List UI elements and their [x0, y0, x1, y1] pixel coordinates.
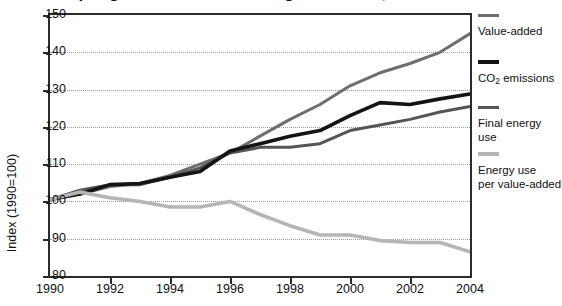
- legend-label-3: Energy use per value-added: [478, 164, 562, 191]
- x-tick-mark-2000: [350, 278, 352, 284]
- x-tick-mark-2002: [410, 278, 412, 284]
- legend-label-0: Value-added: [478, 25, 562, 39]
- legend-swatch-icon-3: [478, 152, 499, 156]
- legend-swatch-icon-0: [478, 14, 499, 17]
- series-line-value-added: [50, 34, 470, 200]
- plot-area: [48, 13, 472, 278]
- x-tick-label-1998: 1998: [276, 282, 304, 296]
- legend-label-1: CO2 emissions: [478, 72, 562, 87]
- y-tick-label-90: 90: [52, 231, 66, 245]
- legend-swatch-icon-1: [478, 60, 499, 64]
- y-tick-label-80: 80: [52, 268, 66, 282]
- legend-entry-3[interactable]: Energy use per value-added: [478, 152, 562, 191]
- x-tick-label-2000: 2000: [336, 282, 364, 296]
- y-tick-label-130: 130: [45, 82, 66, 96]
- y-tick-mark-80: [43, 276, 48, 278]
- legend-label-2: Final energy use: [478, 117, 562, 144]
- y-tick-label-110: 110: [46, 156, 66, 170]
- series-line-energy-use-per-value-added: [50, 192, 470, 252]
- y-tick-mark-130: [43, 90, 48, 92]
- y-tick-mark-110: [43, 164, 48, 166]
- x-tick-label-1990: 1990: [36, 282, 64, 296]
- y-tick-mark-100: [43, 201, 48, 203]
- legend-swatch-icon-2: [478, 106, 499, 109]
- x-tick-mark-1992: [110, 278, 112, 284]
- chart-legend: Value-addedCO2 emissionsFinal energy use…: [478, 0, 562, 306]
- x-tick-label-1996: 1996: [216, 282, 244, 296]
- legend-entry-0[interactable]: Value-added: [478, 14, 562, 39]
- y-axis-label: Index (1990=100): [5, 123, 19, 283]
- y-tick-mark-150: [43, 15, 48, 17]
- x-tick-mark-1994: [170, 278, 172, 284]
- y-tick-label-150: 150: [45, 7, 66, 21]
- y-tick-mark-140: [43, 52, 48, 54]
- y-tick-mark-90: [43, 239, 48, 241]
- legend-entry-2[interactable]: Final energy use: [478, 106, 562, 144]
- y-tick-label-120: 120: [45, 119, 66, 133]
- page-title: Decoupling in the manufacturing industri…: [26, 0, 440, 3]
- y-tick-label-100: 100: [45, 193, 66, 207]
- x-tick-label-1992: 1992: [96, 282, 124, 296]
- x-tick-label-2002: 2002: [396, 282, 424, 296]
- y-tick-mark-120: [43, 127, 48, 129]
- y-tick-label-140: 140: [45, 44, 66, 58]
- x-tick-label-1994: 1994: [156, 282, 184, 296]
- series-layer: [50, 15, 470, 276]
- x-tick-mark-1996: [230, 278, 232, 284]
- x-tick-mark-1998: [290, 278, 292, 284]
- chart-figure: Decoupling in the manufacturing industri…: [0, 0, 562, 306]
- legend-entry-1[interactable]: CO2 emissions: [478, 60, 562, 87]
